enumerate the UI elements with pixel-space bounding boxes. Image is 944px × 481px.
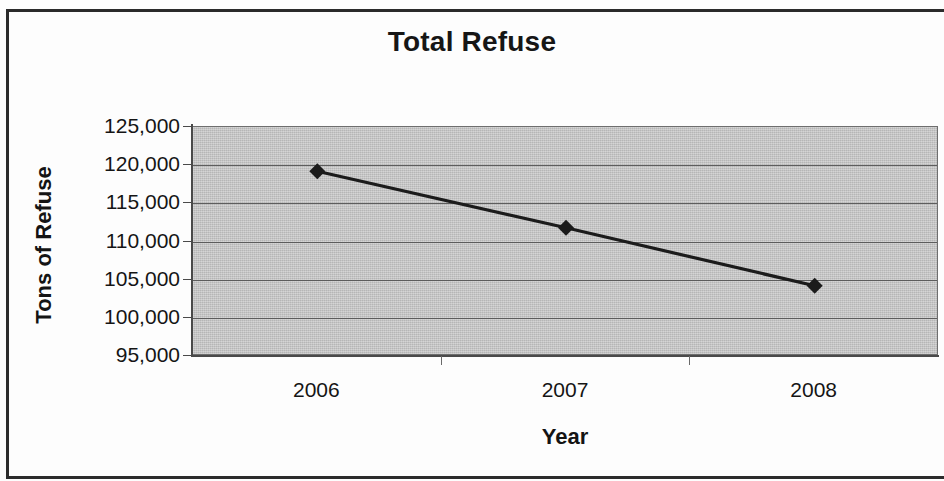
plot-area (192, 126, 938, 355)
y-tick-mark (183, 202, 192, 203)
x-tick-mark (689, 356, 690, 365)
x-axis-line (191, 355, 939, 357)
x-tick-label: 2006 (236, 378, 396, 402)
data-point-marker (309, 163, 325, 179)
line-chart: Total Refuse Tons of Refuse 125,000120,0… (0, 0, 944, 481)
y-tick-label: 115,000 (106, 191, 180, 212)
y-tick-label: 120,000 (104, 153, 180, 174)
y-tick-mark (183, 317, 192, 318)
y-tick-mark (183, 126, 192, 127)
y-tick-label: 110,000 (106, 230, 180, 251)
y-tick-mark (183, 279, 192, 280)
y-tick-label: 100,000 (104, 306, 180, 327)
x-tick-label: 2007 (485, 378, 645, 402)
y-tick-mark (183, 241, 192, 242)
scanned-page: Total Refuse Tons of Refuse 125,000120,0… (0, 0, 944, 481)
y-tick-mark (183, 164, 192, 165)
y-tick-label: 105,000 (104, 268, 180, 289)
series-layer (193, 127, 939, 356)
data-point-marker (807, 278, 823, 294)
y-axis-title: Tons of Refuse (31, 135, 57, 355)
data-point-marker (558, 220, 574, 236)
y-tick-label: 125,000 (104, 115, 180, 136)
series-markers (309, 163, 822, 293)
x-tick-label: 2008 (734, 378, 894, 402)
x-axis-title: Year (192, 424, 938, 450)
chart-title: Total Refuse (0, 26, 944, 58)
x-tick-mark (441, 356, 442, 365)
y-tick-label: 95,000 (116, 344, 180, 365)
